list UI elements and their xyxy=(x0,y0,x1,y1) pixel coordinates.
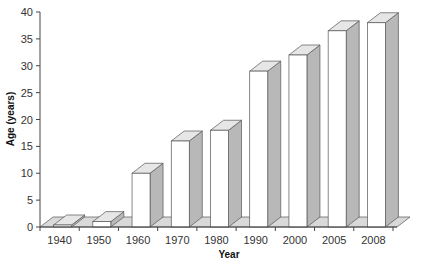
x-tick-label: 1940 xyxy=(47,234,71,246)
y-tick-label: 40 xyxy=(21,6,33,18)
bar xyxy=(132,163,163,227)
bar xyxy=(171,131,202,227)
y-tick-label: 35 xyxy=(21,33,33,45)
bars xyxy=(54,13,399,227)
y-tick-label: 25 xyxy=(21,87,33,99)
y-tick-label: 15 xyxy=(21,140,33,152)
x-tick-label: 1980 xyxy=(204,234,228,246)
x-axis: 194019501960197019801990200020052008 xyxy=(40,227,397,246)
y-tick-label: 0 xyxy=(27,221,33,233)
x-tick-label: 1970 xyxy=(165,234,189,246)
bar xyxy=(211,120,242,227)
bar xyxy=(367,13,398,227)
y-tick-label: 30 xyxy=(21,60,33,72)
y-tick-label: 5 xyxy=(27,194,33,206)
x-tick-label: 2008 xyxy=(361,234,385,246)
y-axis-title: Age (years) xyxy=(5,92,16,146)
bar xyxy=(289,45,320,227)
y-tick-label: 20 xyxy=(21,114,33,126)
x-tick-label: 2005 xyxy=(322,234,346,246)
x-axis-title: Year xyxy=(218,249,239,260)
y-axis: 0510152025303540 xyxy=(21,6,40,233)
x-tick-label: 2000 xyxy=(283,234,307,246)
x-tick-label: 1960 xyxy=(126,234,150,246)
x-tick-label: 1950 xyxy=(87,234,111,246)
bar xyxy=(250,61,281,227)
y-tick-label: 10 xyxy=(21,167,33,179)
x-tick-label: 1990 xyxy=(243,234,267,246)
bar xyxy=(328,21,359,227)
bar-chart: 0510152025303540 19401950196019701980199… xyxy=(0,0,423,265)
